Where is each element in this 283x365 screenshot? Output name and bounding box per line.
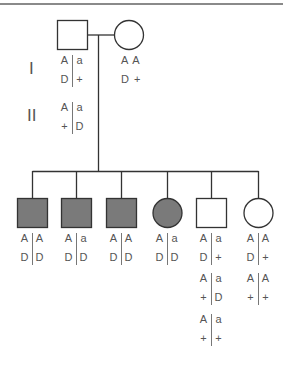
child-5-genotype-1: A a D + [197, 232, 227, 266]
chromosome-divider [76, 233, 77, 265]
allele: D [77, 251, 90, 263]
child-5-genotype-3: A a + + [197, 313, 227, 347]
allele: + [244, 291, 257, 303]
allele: a [77, 232, 90, 244]
child-2-genotype: A a D D [62, 232, 92, 266]
allele: + [197, 291, 210, 303]
allele: D [212, 291, 225, 303]
allele: D [18, 251, 31, 263]
gen1-mother-circle [115, 21, 144, 50]
chromosome-divider [211, 314, 212, 346]
allele: A [107, 232, 120, 244]
child-4-genotype: A a D D [153, 232, 183, 266]
child-2-affected-male [62, 199, 92, 228]
chromosome-divider [211, 233, 212, 265]
allele: D [122, 251, 135, 263]
allele: D [168, 251, 181, 263]
allele: + [259, 291, 272, 303]
generation-label-II: II [27, 106, 36, 126]
chromosome-divider [72, 102, 73, 134]
allele: A [58, 54, 71, 66]
allele: D [153, 251, 166, 263]
chromosome-divider [211, 273, 212, 305]
allele: + [73, 73, 86, 85]
generation-label-I: I [29, 59, 34, 79]
allele: A [153, 232, 166, 244]
pedigree-chart [0, 0, 283, 365]
allele: A [197, 232, 210, 244]
chromosome-divider [258, 233, 259, 265]
allele: A [197, 272, 210, 284]
child-3-affected-male [107, 199, 137, 228]
child-1-genotype: A A D D [18, 232, 48, 266]
gen2-gamete-genotype: A a + D [58, 101, 88, 135]
allele: A [122, 232, 135, 244]
child-4-affected-female [153, 199, 182, 228]
allele: a [212, 313, 225, 325]
allele: A [197, 313, 210, 325]
allele: a [168, 232, 181, 244]
child-6-genotype-1: A A D + [244, 232, 274, 266]
chromosome-divider [72, 55, 73, 87]
allele: + [197, 332, 210, 344]
allele: + [58, 120, 71, 132]
allele: + [259, 251, 272, 263]
child-5-genotype-2: A a + D [197, 272, 227, 306]
child-6-genotype-2: A A + + [244, 272, 274, 306]
gen1-father-genotype: A a D + [58, 54, 88, 88]
allele: D [62, 251, 75, 263]
child-3-genotype: A A D D [107, 232, 137, 266]
allele: D [197, 251, 210, 263]
allele: A [244, 272, 257, 284]
allele: D [33, 251, 46, 263]
allele: a [73, 54, 86, 66]
allele: a [212, 272, 225, 284]
gen1-father-square [58, 21, 88, 50]
chromosome-divider [121, 233, 122, 265]
allele: a [73, 101, 86, 113]
allele: D [107, 251, 120, 263]
allele: A [33, 232, 46, 244]
gen1-mother-genotype-line1: A A [121, 54, 141, 66]
allele: D [58, 73, 71, 85]
allele: + [212, 332, 225, 344]
allele: A [244, 232, 257, 244]
gen1-mother-genotype-line2: D + [121, 73, 141, 85]
allele: A [58, 101, 71, 113]
allele: A [18, 232, 31, 244]
chromosome-divider [258, 273, 259, 305]
chromosome-divider [32, 233, 33, 265]
allele: A [62, 232, 75, 244]
allele: A [259, 232, 272, 244]
child-6-unaffected-female [244, 199, 273, 228]
allele: + [212, 251, 225, 263]
allele: a [212, 232, 225, 244]
allele: D [73, 120, 86, 132]
chromosome-divider [167, 233, 168, 265]
allele: A [259, 272, 272, 284]
child-1-affected-male [18, 199, 48, 228]
child-5-unaffected-male [197, 199, 227, 228]
allele: D [244, 251, 257, 263]
